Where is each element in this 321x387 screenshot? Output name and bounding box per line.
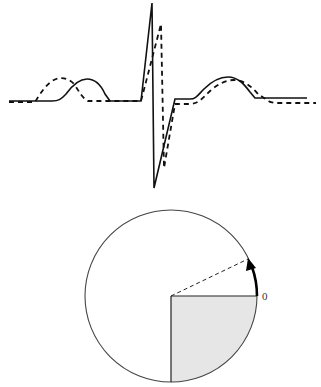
shaded-quadrant bbox=[171, 296, 257, 382]
phase-circle: 0 bbox=[85, 210, 268, 382]
solid-trace bbox=[9, 3, 307, 188]
rotation-arrow-arc bbox=[252, 267, 257, 296]
dashed-rotated-radius bbox=[171, 259, 248, 296]
zero-label: 0 bbox=[262, 290, 268, 302]
diagram-canvas: 0 bbox=[0, 0, 321, 387]
waveform-panel bbox=[9, 3, 316, 188]
dashed-trace bbox=[9, 24, 316, 168]
arrowhead-icon bbox=[246, 258, 256, 271]
